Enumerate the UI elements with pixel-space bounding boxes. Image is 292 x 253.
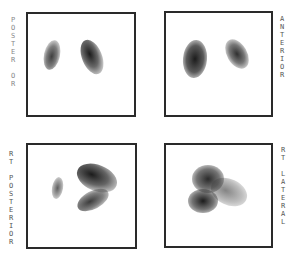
uptake-right-kidney	[76, 37, 108, 78]
label-rt-posterior: R T P O S T E R I O R	[6, 150, 16, 246]
label-rt-lateral: R T L A T E R A L	[278, 146, 288, 226]
label-anterior: A N T E R I O R	[277, 15, 287, 79]
panel-posterior	[26, 12, 136, 117]
uptake-small-kidney	[50, 176, 65, 200]
panel-rt-posterior	[26, 143, 137, 249]
panel-anterior	[164, 11, 273, 117]
label-posterior: P O S T E R O R	[8, 16, 18, 88]
panel-rt-lateral	[164, 143, 273, 248]
uptake-left-kidney	[181, 39, 208, 79]
uptake-left-kidney	[41, 39, 63, 72]
uptake-right-kidney	[220, 35, 253, 73]
